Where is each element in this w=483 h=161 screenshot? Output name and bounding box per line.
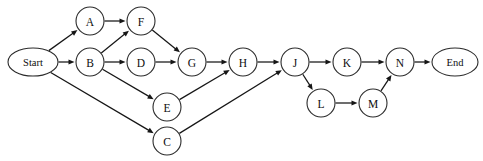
arrowhead-J-to-L — [307, 83, 312, 89]
node-shape-E[interactable] — [153, 93, 181, 121]
edge-M-to-N — [381, 79, 389, 91]
arrowhead-G-to-H — [222, 59, 228, 64]
node-shape-A[interactable] — [76, 7, 104, 35]
arrowhead-H-to-J — [274, 59, 280, 64]
node-shape-N[interactable] — [386, 48, 414, 76]
arrowhead-M-to-N — [386, 75, 391, 81]
node-C[interactable]: C — [153, 127, 181, 155]
node-shape-M[interactable] — [359, 89, 387, 117]
node-M[interactable]: M — [359, 89, 387, 117]
node-shape-L[interactable] — [307, 89, 335, 117]
node-L[interactable]: L — [307, 89, 335, 117]
node-shape-C[interactable] — [153, 127, 181, 155]
node-end[interactable]: End — [432, 48, 478, 76]
arrowhead-L-to-M — [352, 100, 358, 105]
node-shape-H[interactable] — [229, 48, 257, 76]
node-F[interactable]: F — [127, 7, 155, 35]
node-shape-start[interactable] — [8, 48, 58, 76]
node-J[interactable]: J — [281, 48, 309, 76]
arrowhead-N-to-end — [425, 59, 431, 64]
node-G[interactable]: G — [178, 48, 206, 76]
edge-J-to-L — [303, 74, 310, 85]
arrowhead-K-to-N — [379, 59, 385, 64]
arrowhead-D-to-G — [171, 59, 177, 64]
node-E[interactable]: E — [153, 93, 181, 121]
node-layer: StartABFDGECHJKLMNEnd — [8, 7, 478, 155]
graph-svg: StartABFDGECHJKLMNEnd — [0, 0, 483, 161]
edge-start-to-A — [49, 33, 74, 51]
arrowhead-J-to-K — [326, 59, 332, 64]
arrowhead-B-to-D — [120, 59, 126, 64]
arrowhead-start-to-A — [71, 30, 77, 36]
node-start[interactable]: Start — [8, 48, 58, 76]
node-shape-F[interactable] — [127, 7, 155, 35]
edge-C-to-J — [179, 73, 277, 134]
node-shape-end[interactable] — [432, 48, 478, 76]
node-N[interactable]: N — [386, 48, 414, 76]
edge-F-to-G — [152, 30, 176, 49]
diagram-canvas: StartABFDGECHJKLMNEnd — [0, 0, 483, 161]
node-shape-K[interactable] — [333, 48, 361, 76]
node-B[interactable]: B — [76, 48, 104, 76]
node-H[interactable]: H — [229, 48, 257, 76]
edge-start-to-C — [51, 72, 150, 130]
node-shape-J[interactable] — [281, 48, 309, 76]
arrowhead-A-to-F — [120, 18, 126, 23]
node-K[interactable]: K — [333, 48, 361, 76]
edge-E-to-H — [179, 72, 225, 99]
node-shape-D[interactable] — [127, 48, 155, 76]
arrowhead-start-to-B — [69, 59, 75, 64]
node-shape-G[interactable] — [178, 48, 206, 76]
node-A[interactable]: A — [76, 7, 104, 35]
edge-B-to-F — [101, 34, 125, 53]
node-shape-B[interactable] — [76, 48, 104, 76]
node-D[interactable]: D — [127, 48, 155, 76]
